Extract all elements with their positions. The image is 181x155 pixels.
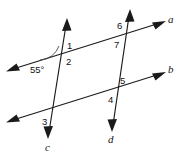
angle-label-2: 2: [66, 57, 71, 67]
line-label-a: a: [168, 14, 174, 25]
angle-label-1: 1: [67, 41, 72, 51]
line-c-arrow-up-icon: [62, 18, 72, 31]
line-b: [6, 72, 166, 123]
angle-label-5: 5: [120, 76, 125, 86]
line-b-arrow-left-icon: [6, 115, 20, 123]
line-c-path: [49, 25, 66, 132]
angle-label-4: 4: [108, 95, 113, 105]
line-a-path: [13, 23, 160, 69]
angle-label-3: 3: [42, 117, 47, 127]
line-d-arrow-down-icon: [108, 119, 118, 132]
line-c-arrow-down-icon: [44, 126, 54, 139]
line-b-arrow-right-icon: [152, 72, 166, 81]
line-label-b: b: [168, 64, 174, 75]
line-label-d: d: [108, 134, 114, 145]
line-c: [44, 18, 72, 139]
geometry-canvas: [0, 0, 181, 155]
geometry-diagram: a b c d 1 2 3 4 5 6 7 55°: [0, 0, 181, 155]
line-b-path: [13, 74, 160, 120]
line-a-arrow-right-icon: [152, 21, 166, 30]
line-a-arrow-left-icon: [6, 64, 20, 72]
line-label-c: c: [45, 142, 50, 153]
angle-measure-55: 55°: [30, 65, 44, 75]
line-d-arrow-up-icon: [125, 9, 135, 22]
line-d-path: [113, 16, 129, 125]
angle-label-7: 7: [114, 40, 119, 50]
angle-label-6: 6: [117, 21, 122, 31]
